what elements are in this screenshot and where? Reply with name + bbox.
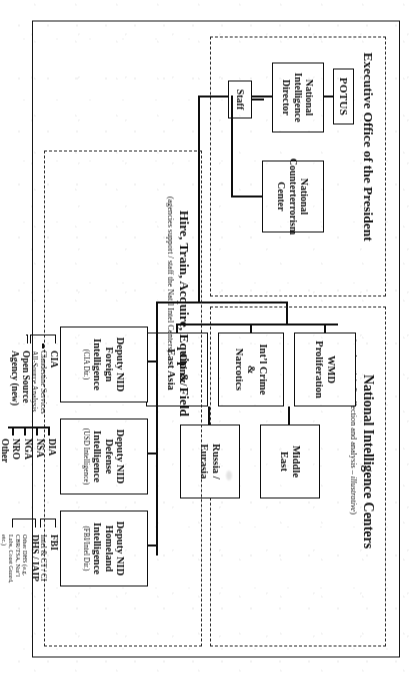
htaef-subtitle: (agencies support / staff the Nat’l Inte… xyxy=(166,196,175,352)
bracket-tick-cia xyxy=(42,343,44,348)
agency-fbi[interactable]: FBI xyxy=(48,534,58,550)
dep-foreign-line2: Foreign xyxy=(103,347,115,382)
node-potus-label: POTUS xyxy=(337,77,349,115)
bracket-fbi xyxy=(40,518,56,527)
agency-dhs-iaip[interactable]: DHS / IAIP xyxy=(29,534,39,581)
russia-line1: Russia / xyxy=(210,443,222,478)
nic-subtitle-italic: illustrative xyxy=(349,476,358,511)
dep-homeland-line2: Homeland xyxy=(103,525,115,572)
dep-defense-paren: (USD Intelligence) xyxy=(82,428,90,484)
dep-defense-line2: Defense xyxy=(103,439,115,474)
node-deputy-nid-foreign[interactable]: Deputy NID Foreign Intelligence (CIA Dir… xyxy=(60,326,148,402)
dep-defense-line1: Deputy NID xyxy=(115,429,127,484)
executive-office-title: Executive Office of the President xyxy=(360,52,376,241)
nic-trunk xyxy=(178,323,338,325)
nid-label-line1: National Intelligence xyxy=(292,63,314,131)
nic-title: National Intelligence Centers xyxy=(360,374,376,548)
agency-open-source-new[interactable]: Agency (new) xyxy=(9,350,19,405)
dep-homeland-line3: Intelligence xyxy=(91,522,103,574)
connector-trunk-wmd xyxy=(324,323,326,333)
htaef-title: Hire, Train, Acquire, Equip & Field xyxy=(176,210,192,416)
connector-crime-russia xyxy=(208,406,210,424)
connector-nid-staff xyxy=(252,98,264,100)
agency-other-dhs-line3[interactable]: Labs, Coast Guard, xyxy=(7,534,14,583)
agency-open-source[interactable]: Open Source xyxy=(20,350,30,402)
connector-nctc-drop xyxy=(232,195,262,197)
bracket-open-source xyxy=(26,334,28,343)
node-national-counterterrorism-center[interactable]: National Counterterrorism Center xyxy=(262,160,324,232)
meast-line1: Middle xyxy=(290,445,302,477)
connector-bus-riser xyxy=(198,301,288,303)
nctc-label-line1: National xyxy=(299,178,310,215)
dep-homeland-line1: Deputy NID xyxy=(115,521,127,576)
crime-line1: Int’l Crime xyxy=(257,343,269,394)
nic-subtitle-post: ) xyxy=(349,511,358,514)
nctc-label-line2: Counterterrorism xyxy=(287,158,298,234)
agency-clandestine-services[interactable]: Clandestine Services xyxy=(39,350,47,413)
agency-other[interactable]: Other xyxy=(0,438,9,462)
node-deputy-nid-homeland[interactable]: Deputy NID Homeland Intelligence (FBI/In… xyxy=(60,510,148,586)
wmd-line1: WMD xyxy=(325,355,337,383)
rotated-page-canvas: Executive Office of the President POTUS … xyxy=(0,0,416,677)
connector-trunk-crime xyxy=(250,323,252,333)
meast-line2: East xyxy=(278,451,290,471)
htaef-bus xyxy=(156,325,158,555)
nid-label-line2: Director xyxy=(281,79,292,115)
agency-all-source-analysis[interactable]: All-Source Analysis xyxy=(30,350,38,411)
agency-nsa[interactable]: NSA xyxy=(34,438,44,457)
agency-other-dhs-line1[interactable]: Other DHS (e.g. xyxy=(21,534,28,575)
crime-line2: & xyxy=(245,365,257,374)
bracket-cia xyxy=(30,334,56,343)
node-national-intelligence-director[interactable]: National Intelligence Director xyxy=(272,62,324,132)
connector-wmd-middle-east xyxy=(288,406,290,424)
nctc-label-line3: Center xyxy=(276,181,287,210)
agency-other-dhs-line4[interactable]: etc.) xyxy=(0,534,7,545)
dep-foreign-paren: (CIA Dir.) xyxy=(82,349,90,379)
agency-nga[interactable]: NGA xyxy=(22,438,32,459)
chart-page: Executive Office of the President POTUS … xyxy=(0,0,416,677)
agency-cia[interactable]: CIA xyxy=(48,350,58,367)
node-center-intl-crime[interactable]: Int’l Crime & Narcotics xyxy=(218,332,284,406)
dep-foreign-line3: Intelligence xyxy=(91,338,103,390)
crime-line3: Narcotics xyxy=(233,348,245,390)
connector-nctc-to-spine xyxy=(231,95,233,197)
dep-defense-line3: Intelligence xyxy=(91,430,103,482)
dep-foreign-line1: Deputy NID xyxy=(115,337,127,392)
bracket-dhs xyxy=(12,518,36,527)
node-deputy-nid-defense[interactable]: Deputy NID Defense Intelligence (USD Int… xyxy=(60,418,148,494)
agency-list-defense-spine xyxy=(8,426,50,428)
scan-artifact-smudge xyxy=(226,470,232,480)
agency-other-dhs-line2[interactable]: CBR/TSA, Nat’l xyxy=(14,534,21,576)
wmd-line2: Proliferation xyxy=(313,340,325,398)
node-center-middle-east[interactable]: Middle East xyxy=(260,424,320,498)
dep-homeland-paren: (FBI/Intel Dir.) xyxy=(82,525,90,570)
node-potus[interactable]: POTUS xyxy=(333,68,354,124)
node-center-wmd[interactable]: WMD Proliferation xyxy=(294,332,356,406)
agency-fbi-intel-ct-ci[interactable]: Intel & CT / CI xyxy=(39,534,47,581)
agency-dia[interactable]: DIA xyxy=(46,438,56,455)
agency-nro[interactable]: NRO xyxy=(10,438,20,459)
connector-potus-nid xyxy=(324,95,333,97)
staff-label: Staff xyxy=(234,89,245,110)
